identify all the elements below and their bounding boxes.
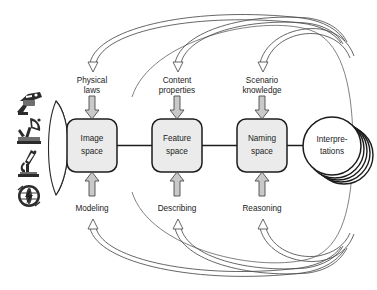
label-describing: Describing [158, 204, 197, 213]
interpretations-label-line1: Interpre- [317, 135, 348, 144]
label-line1: Content [163, 76, 192, 85]
sensor-icon-group [17, 92, 42, 207]
label-reasoning: Reasoning [242, 204, 282, 213]
label-modeling: Modeling [75, 204, 109, 213]
label-line2: laws [84, 86, 100, 95]
interpretations-label-line2: tations [320, 147, 344, 156]
stage-label-line2: space [166, 147, 188, 156]
block-arrow-describing-up [170, 172, 184, 196]
stage-label-line2: space [81, 147, 103, 156]
stage-naming-space[interactable]: Naming space [237, 119, 287, 172]
label-line1: Scenario [246, 76, 279, 85]
radar-dish-icon [17, 118, 41, 144]
block-arrow-modeling-up [85, 172, 99, 196]
optics-lens-shape [49, 101, 69, 195]
stage-label-line1: Image [81, 134, 104, 143]
diagram-canvas: Image space Feature space Naming space I… [0, 0, 377, 290]
block-arrow-scenario-knowledge-down [255, 96, 269, 119]
stage-box[interactable] [152, 119, 202, 172]
label-content-properties: Content properties [159, 76, 195, 95]
block-arrow-content-properties-down [170, 96, 184, 119]
label-line2: properties [159, 86, 195, 95]
label-line2: knowledge [242, 86, 282, 95]
block-arrow-physical-laws-down [85, 96, 99, 119]
stage-label-line2: space [251, 147, 273, 156]
stage-box[interactable] [237, 119, 287, 172]
label-physical-laws: Physical laws [77, 76, 108, 95]
label-line1: Physical [77, 76, 108, 85]
stage-box[interactable] [67, 119, 117, 172]
interpretations-node[interactable]: Interpre- tations [303, 117, 373, 184]
camera-icon [17, 92, 42, 115]
stage-label-line1: Naming [248, 134, 277, 143]
interpretations-circle[interactable] [303, 117, 361, 175]
microscope-icon [18, 150, 39, 177]
stage-feature-space[interactable]: Feature space [152, 119, 202, 172]
block-arrow-reasoning-up [255, 172, 269, 196]
globe-icon [18, 185, 40, 207]
label-scenario-knowledge: Scenario knowledge [242, 76, 282, 95]
feedback-top-to-scenario-knowledge [258, 29, 354, 72]
feedback-bottom-to-reasoning [258, 219, 354, 261]
stage-label-line1: Feature [163, 134, 192, 143]
pipeline-diagram: Image space Feature space Naming space I… [0, 0, 377, 290]
stage-image-space[interactable]: Image space [67, 119, 117, 172]
